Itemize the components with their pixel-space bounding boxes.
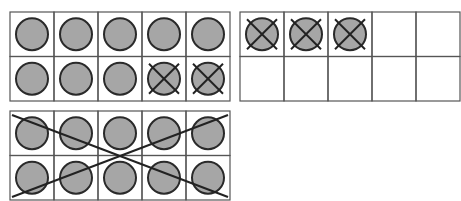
cell-filled bbox=[186, 12, 230, 57]
cell-empty bbox=[328, 57, 372, 102]
counter-icon bbox=[104, 162, 136, 194]
cell-empty bbox=[240, 57, 284, 102]
cell-filled bbox=[10, 57, 54, 102]
counter-icon bbox=[16, 63, 48, 95]
cell-crossed bbox=[328, 12, 372, 57]
cell-filled bbox=[54, 57, 98, 102]
ten-frame-1-graphic bbox=[9, 11, 231, 102]
cell-empty bbox=[416, 12, 460, 57]
counter-icon bbox=[104, 117, 136, 149]
counter-icon bbox=[60, 18, 92, 50]
counter-icon bbox=[16, 18, 48, 50]
cell-filled bbox=[142, 12, 186, 57]
ten-frame-3 bbox=[9, 110, 231, 201]
cell-crossed bbox=[186, 57, 230, 102]
cell-filled bbox=[10, 156, 54, 201]
cell-crossed bbox=[284, 12, 328, 57]
counter-icon bbox=[192, 18, 224, 50]
cell-filled bbox=[98, 57, 142, 102]
cell-empty bbox=[372, 57, 416, 102]
ten-frame-2 bbox=[239, 11, 461, 102]
cell-filled bbox=[54, 12, 98, 57]
ten-frame-3-graphic bbox=[9, 110, 231, 201]
cell-empty bbox=[284, 57, 328, 102]
ten-frame-1 bbox=[9, 11, 231, 102]
cell-filled bbox=[98, 12, 142, 57]
cell-filled bbox=[10, 12, 54, 57]
ten-frame-2-graphic bbox=[239, 11, 461, 102]
cell-empty bbox=[372, 12, 416, 57]
counter-icon bbox=[104, 63, 136, 95]
cell-filled bbox=[186, 156, 230, 201]
cell-filled bbox=[98, 111, 142, 156]
counter-icon bbox=[104, 18, 136, 50]
cell-empty bbox=[416, 57, 460, 102]
cell-crossed bbox=[142, 57, 186, 102]
cell-crossed bbox=[240, 12, 284, 57]
counter-icon bbox=[148, 18, 180, 50]
counter-icon bbox=[60, 63, 92, 95]
